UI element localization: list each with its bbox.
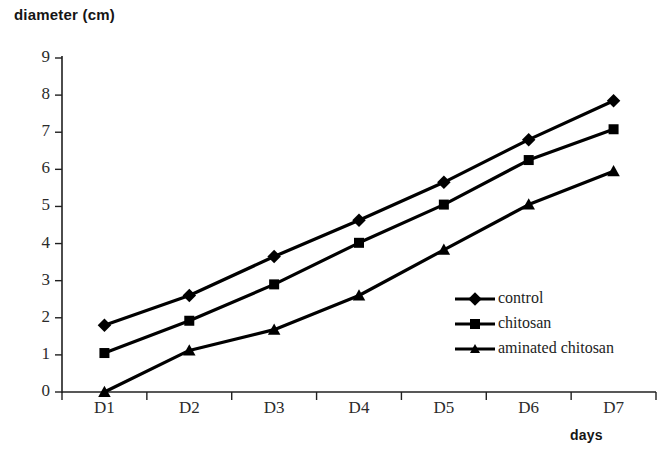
y-axis-ticks [55,58,62,392]
legend-item-label: control [498,289,543,307]
marker-diamond [183,289,197,303]
marker-diamond [522,133,536,147]
marker-diamond [98,318,112,332]
marker-square [99,348,109,358]
marker-diamond [267,250,281,263]
x-axis-ticks [62,392,656,400]
marker-diamond [352,213,366,227]
marker-square [439,200,449,210]
series-aminated-chitosan [98,165,620,397]
legend-item-label: chitosan [498,314,551,332]
series-line [104,171,613,392]
marker-diamond [468,292,482,306]
marker-square [269,279,279,289]
marker-square [470,319,480,329]
legend-item-label: aminated chitosan [498,339,614,357]
marker-square [354,238,364,248]
marker-square [524,155,534,165]
marker-square [609,124,619,134]
marker-diamond [437,176,451,190]
marker-square [184,316,194,326]
page-edge-artifact [0,449,663,463]
plot-area [0,0,663,463]
marker-diamond [607,94,621,108]
marker-triangle [607,165,620,176]
chart-figure: diameter (cm) days 0123456789 D1D2D3D4D5… [0,0,663,463]
legend-markers [455,292,495,353]
